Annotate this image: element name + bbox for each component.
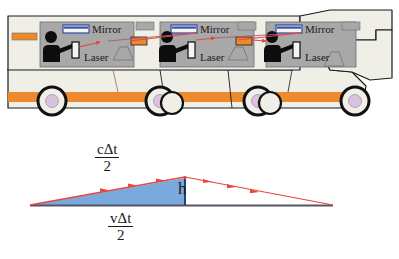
laser-label-1: Laser [84, 51, 109, 63]
base-denominator: 2 [108, 227, 133, 243]
mirror-label-1: Mirror [92, 23, 122, 35]
mirror-label-3: Mirror [305, 23, 335, 35]
wheel-4 [341, 87, 369, 115]
diagram-canvas: Mirror Laser Mirror Laser Mirror Laser [0, 0, 399, 259]
hypotenuse-denominator: 2 [95, 158, 119, 174]
laser-label-3: Laser [305, 51, 330, 63]
vehicle-illustration: Mirror Laser Mirror Laser Mirror Laser [8, 10, 392, 115]
mirror-icon [171, 25, 197, 33]
mirror-label-2: Mirror [200, 23, 230, 35]
base-numerator: vΔt [108, 211, 133, 227]
laser-label-2: Laser [200, 51, 225, 63]
height-label: h [178, 179, 187, 199]
wheel-1 [38, 87, 66, 115]
base-length-label: vΔt 2 [108, 211, 133, 243]
figure-root: Mirror Laser Mirror Laser Mirror Laser [0, 0, 399, 259]
laser-device [293, 42, 300, 58]
hypotenuse-numerator: cΔt [95, 142, 119, 158]
hypotenuse-length-label: cΔt 2 [95, 142, 119, 174]
wheel-2b [161, 92, 183, 114]
roof-panel-1 [136, 22, 154, 30]
mirror-icon [276, 25, 302, 33]
laser-device [188, 42, 195, 58]
mirror-icon [63, 25, 89, 33]
roof-panel-2 [238, 22, 256, 30]
wheel-3b [259, 92, 281, 114]
rear-orange-marker [12, 33, 37, 40]
laser-device [72, 42, 79, 58]
roof-panel-3 [342, 22, 360, 30]
